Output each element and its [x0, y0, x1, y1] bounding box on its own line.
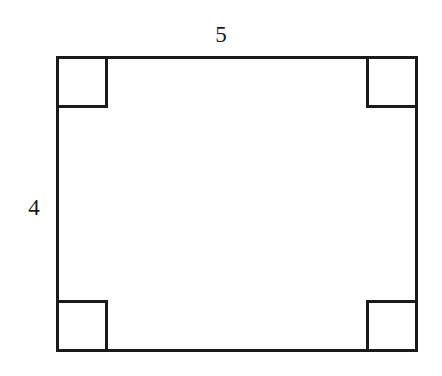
geometry-figure: 5 4 — [0, 0, 442, 376]
rectangle-outline — [58, 58, 417, 351]
width-dimension-label: 5 — [0, 23, 442, 46]
rectangle-diagram-svg — [0, 0, 442, 376]
height-dimension-label: 4 — [18, 196, 50, 219]
